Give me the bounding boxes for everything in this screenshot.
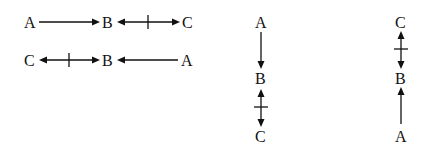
diagram-3: A B C [254, 14, 268, 145]
arrowhead-icon [258, 61, 265, 69]
arrowhead-icon [117, 57, 125, 64]
arrowhead-icon [92, 19, 100, 26]
diagram-4: C B A [394, 14, 408, 145]
node-b: B [102, 52, 113, 69]
node-c: C [255, 128, 266, 145]
node-c: C [24, 52, 35, 69]
node-a: A [24, 14, 36, 31]
node-a: A [181, 52, 193, 69]
node-c: C [182, 14, 193, 31]
arrowhead-icon [398, 31, 405, 39]
node-c: C [395, 14, 406, 31]
diagram-2: C B A [24, 52, 193, 69]
arrowhead-icon [398, 61, 405, 69]
node-b: B [102, 14, 113, 31]
node-b: B [255, 70, 266, 87]
diagram-canvas: A B C C B A A B C C [0, 0, 429, 146]
arrowhead-icon [117, 19, 125, 26]
arrowhead-icon [258, 89, 265, 97]
node-b: B [395, 70, 406, 87]
node-a: A [395, 128, 407, 145]
arrowhead-icon [398, 87, 405, 95]
arrowhead-icon [92, 57, 100, 64]
arrowhead-icon [258, 119, 265, 127]
diagram-1: A B C [24, 14, 193, 31]
node-a: A [255, 14, 267, 31]
arrowhead-icon [39, 57, 47, 64]
arrowhead-icon [172, 19, 180, 26]
